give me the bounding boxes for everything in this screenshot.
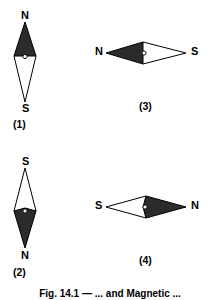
pivot-dot	[142, 51, 146, 55]
pole-label-south: S	[22, 156, 29, 167]
figure-number-4: (4)	[139, 255, 152, 266]
figure-number-2: (2)	[13, 267, 26, 278]
figure-number-1: (1)	[13, 119, 26, 130]
pole-label-south: S	[95, 200, 102, 211]
pivot-dot	[143, 205, 147, 209]
needle-half-dark	[14, 22, 36, 59]
figure-number-3: (3)	[139, 101, 152, 112]
figure-panel-2: S N (2)	[0, 148, 110, 288]
figure-panel-4: S N (4)	[110, 148, 220, 288]
pole-label-north: N	[21, 10, 29, 21]
figure-panel-3: N S (3)	[110, 0, 220, 140]
pole-label-north: N	[21, 250, 29, 261]
figure-panel-1: N S (1)	[0, 0, 110, 140]
compass-needle-vertical-1	[11, 22, 39, 102]
compass-needle-horizontal-3	[106, 40, 186, 66]
pole-label-north: N	[191, 200, 199, 211]
needle-half-light	[14, 56, 36, 102]
needle-half-dark	[106, 42, 146, 64]
compass-needle-horizontal-4	[106, 194, 186, 220]
compass-needle-vertical-2	[11, 168, 39, 248]
needle-half-light	[106, 196, 146, 218]
figure-caption: Fig. 14.1 — ... and Magnetic ...	[0, 288, 220, 300]
pivot-dot	[23, 209, 27, 213]
needle-half-dark	[143, 196, 186, 218]
pole-label-north: N	[95, 46, 103, 57]
pivot-dot	[23, 54, 27, 58]
needle-half-light	[14, 168, 36, 211]
pole-label-south: S	[22, 103, 29, 114]
needle-half-light	[143, 42, 186, 64]
needle-half-dark	[14, 208, 36, 248]
pole-label-south: S	[191, 46, 198, 57]
